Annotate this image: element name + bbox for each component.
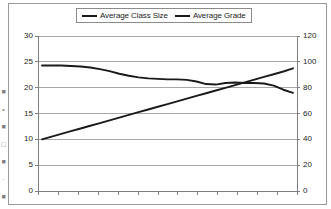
chart-figure: ■•■□■·■ Average Class Size Average Grade… [0, 0, 331, 209]
right-axis-tick-label: 0 [303, 187, 307, 195]
plot-canvas [0, 0, 331, 209]
left-axis-tick-label: 10 [24, 135, 33, 143]
left-axis-tick-label: 5 [29, 161, 33, 169]
right-axis-tick-label: 120 [303, 32, 316, 40]
right-axis-tick-label: 80 [303, 84, 312, 92]
left-axis-tick-label: 0 [29, 187, 33, 195]
left-axis-tick-label: 15 [24, 110, 33, 118]
left-axis-tick-label: 25 [24, 58, 33, 66]
right-axis-tick-label: 60 [303, 110, 312, 118]
right-axis-tick-label: 100 [303, 58, 316, 66]
left-axis-tick-label: 30 [24, 32, 33, 40]
left-axis-tick-label: 20 [24, 84, 33, 92]
right-axis-tick-label: 20 [303, 161, 312, 169]
right-axis-tick-label: 40 [303, 135, 312, 143]
